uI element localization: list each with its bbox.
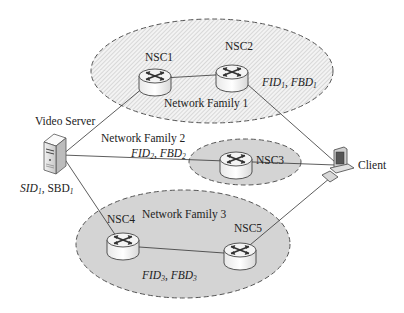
family-2-params: FID2, FBD2 [130, 147, 186, 161]
network-family-2-label: Network Family 2 [101, 132, 186, 145]
client-label: Client [358, 159, 387, 171]
router-nsc3-icon [220, 152, 252, 179]
video-server-label: Video Server [35, 115, 95, 127]
family-1-params: FID1, FBD1 [261, 76, 317, 90]
network-family-3-label: Network Family 3 [142, 208, 227, 221]
server-params: SID1, SBD1 [20, 182, 74, 196]
router-nsc4-icon [107, 233, 139, 260]
nsc3-label: NSC3 [256, 154, 284, 166]
network-family-1-label: Network Family 1 [164, 97, 249, 110]
nsc5-label: NSC5 [234, 222, 262, 234]
router-nsc5-icon [224, 243, 256, 270]
network-family-diagram: NSC1 NSC2 NSC3 NSC4 NSC5 Network Family … [0, 0, 404, 313]
nsc4-label: NSC4 [107, 213, 135, 225]
router-nsc1-icon [139, 69, 171, 96]
nsc1-label: NSC1 [145, 51, 173, 63]
family-3-params: FID3, FBD3 [141, 269, 197, 283]
nsc2-label: NSC2 [225, 40, 253, 52]
router-nsc2-icon [216, 65, 248, 92]
video-server-icon [44, 134, 66, 174]
